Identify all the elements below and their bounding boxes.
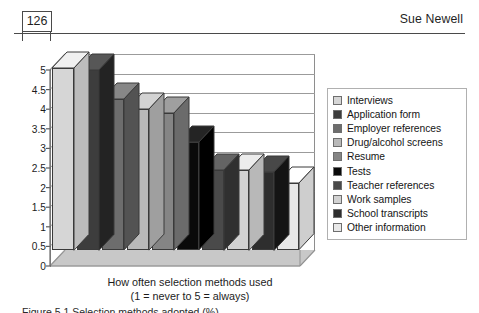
legend-item: Other information	[333, 221, 462, 235]
legend-item: School transcripts	[333, 207, 462, 221]
plot-area	[50, 54, 318, 284]
y-axis-tick-label: 5	[22, 65, 46, 76]
legend-item-label: School transcripts	[347, 208, 428, 219]
legend-color-swatch	[333, 167, 342, 176]
bar-side-face	[74, 52, 91, 252]
legend-color-swatch	[333, 138, 342, 147]
bar-side-face	[249, 154, 266, 252]
figure: 54.543.532.521.510.50	[0, 46, 479, 313]
y-axis-tick-label: 2	[22, 182, 46, 193]
legend-item: Teacher references	[333, 178, 462, 192]
legend-item-label: Other information	[347, 222, 426, 233]
figure-caption: Figure 5.1 Selection methods adopted (%)	[22, 306, 462, 313]
legend-item-label: Resume	[347, 151, 385, 162]
bar-side-face	[199, 126, 216, 252]
legend-item-label: Drug/alcohol screens	[347, 137, 443, 148]
legend-color-swatch	[333, 152, 342, 161]
page-header: 126 Sue Newell	[0, 0, 479, 46]
legend-item-label: Tests	[347, 166, 371, 177]
legend-item: Employer references	[333, 121, 462, 135]
legend-item-label: Application form	[347, 109, 420, 120]
bar-side-face	[149, 93, 166, 252]
header-rule	[14, 33, 465, 34]
legend-item: Application form	[333, 107, 462, 121]
y-axis-tick-label: 2.5	[22, 163, 46, 174]
legend-color-swatch	[333, 223, 342, 232]
y-axis-tick-label: 4.5	[22, 84, 46, 95]
y-axis: 54.543.532.521.510.50	[20, 54, 46, 284]
bar-front-face	[52, 68, 74, 250]
y-axis-tick-label: 1	[22, 221, 46, 232]
y-axis-tick-label: 3.5	[22, 123, 46, 134]
legend-color-swatch	[333, 209, 342, 218]
y-axis-tick-label: 0.5	[22, 241, 46, 252]
legend-item: Interviews	[333, 93, 462, 107]
bar-side-face	[99, 54, 116, 252]
legend-item: Drug/alcohol screens	[333, 136, 462, 150]
bar	[52, 68, 74, 250]
x-axis-caption-line1: How often selection methods used	[40, 276, 340, 290]
y-axis-tick-label: 0	[22, 261, 46, 272]
legend-item-label: Teacher references	[347, 180, 434, 191]
legend-item: Work samples	[333, 192, 462, 206]
legend-color-swatch	[333, 124, 342, 133]
chart-legend: InterviewsApplication formEmployer refer…	[327, 88, 467, 240]
legend-item: Resume	[333, 150, 462, 164]
y-axis-tick-label: 4	[22, 104, 46, 115]
bar-side-face	[174, 97, 191, 252]
page-number-box: 126	[22, 11, 52, 32]
bar-chart: 54.543.532.521.510.50	[20, 54, 320, 284]
bar-side-face	[124, 83, 141, 252]
legend-item-label: Work samples	[347, 194, 411, 205]
legend-color-swatch	[333, 195, 342, 204]
x-axis-caption: How often selection methods used (1 = ne…	[40, 276, 340, 303]
y-axis-tick-label: 3	[22, 143, 46, 154]
page-number: 126	[27, 15, 48, 28]
x-axis-caption-line2: (1 = never to 5 = always)	[40, 290, 340, 304]
legend-item-label: Interviews	[347, 95, 393, 106]
bar-side-face	[224, 154, 241, 252]
y-axis-tick-label: 1.5	[22, 202, 46, 213]
bar-side-face	[299, 167, 316, 252]
legend-color-swatch	[333, 96, 342, 105]
legend-color-swatch	[333, 181, 342, 190]
running-head-author: Sue Newell	[400, 12, 463, 26]
legend-item: Tests	[333, 164, 462, 178]
legend-item-label: Employer references	[347, 123, 441, 134]
bars-group	[50, 54, 318, 267]
bar-side-face	[274, 156, 291, 252]
legend-color-swatch	[333, 110, 342, 119]
